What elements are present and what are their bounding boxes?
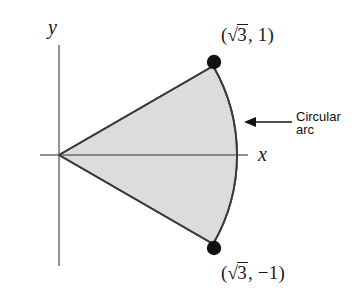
lower-endpoint-dot <box>207 241 221 255</box>
sqrt-symbol-icon: √3 <box>228 24 248 46</box>
upper-endpoint-label: (√3, 1) <box>221 24 274 46</box>
annotation-arrow-head-icon <box>244 117 256 127</box>
lower-label-close: , −1) <box>248 262 285 283</box>
figure-container: y x (√3, 1) (√3, −1) Circular arc <box>0 0 358 306</box>
upper-endpoint-dot <box>207 55 221 69</box>
lower-endpoint-label: (√3, −1) <box>221 262 285 284</box>
lower-label-radicand: 3 <box>237 262 248 283</box>
sqrt-symbol-icon: √3 <box>228 262 248 284</box>
annotation-line-2: arc <box>296 123 341 136</box>
figure-graphic <box>0 0 358 306</box>
y-axis-label: y <box>48 16 57 39</box>
upper-label-radicand: 3 <box>237 24 248 45</box>
x-axis-label: x <box>258 143 267 166</box>
circular-arc-annotation: Circular arc <box>296 110 341 136</box>
upper-label-close: , 1) <box>248 24 274 45</box>
